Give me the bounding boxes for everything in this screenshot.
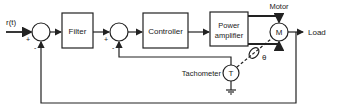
- power-amp-label-1: Power: [218, 21, 240, 30]
- outer-feedback-path: [41, 32, 296, 103]
- sign-minus-2: -: [112, 44, 115, 51]
- sign-minus-1: -: [34, 44, 37, 51]
- theta-label: θ: [262, 53, 267, 62]
- controller-label: Controller: [148, 27, 183, 36]
- summing-junction-2: [110, 23, 128, 41]
- power-amp-label-2: amplifier: [215, 31, 244, 40]
- filter-label: Filter: [69, 27, 87, 36]
- tachometer-symbol: T: [229, 69, 234, 78]
- motor-symbol: M: [276, 28, 283, 37]
- motor-label: Motor: [269, 2, 289, 11]
- input-label: r(t): [6, 18, 17, 27]
- control-block-diagram: r(t) + - + - Filter Controller Power amp…: [0, 0, 338, 112]
- summing-junction-1: [32, 23, 50, 41]
- load-label: Load: [308, 28, 326, 37]
- tachometer-label: Tachometer: [182, 69, 222, 78]
- sign-plus-2: +: [104, 36, 108, 43]
- sign-plus-1: +: [26, 36, 30, 43]
